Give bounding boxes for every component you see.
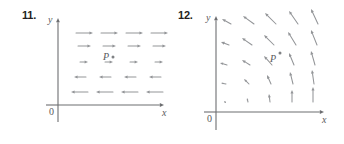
x-axis-label-12: x — [322, 114, 326, 125]
field-vector-2 — [265, 13, 276, 24]
point-label-P-11: P — [103, 51, 109, 62]
field-vector-10 — [220, 63, 227, 65]
field-vector-17 — [96, 90, 113, 93]
field-vector-18 — [289, 72, 293, 84]
field-vector-22 — [268, 94, 271, 102]
field-vector-4 — [78, 44, 91, 47]
field-vector-9 — [311, 30, 317, 45]
field-vector-1 — [243, 16, 254, 24]
field-vector-21 — [247, 98, 249, 102]
field-vector-13 — [99, 75, 111, 78]
field-vector-19 — [146, 90, 163, 93]
field-vector-23 — [290, 90, 293, 102]
field-vector-20 — [224, 101, 226, 103]
field-vector-8 — [288, 32, 296, 45]
field-vector-16 — [71, 90, 88, 93]
field-vector-7 — [264, 35, 274, 45]
point-marker-P — [279, 52, 282, 55]
field-vector-19 — [311, 70, 314, 84]
x-axis-label-11: x — [162, 107, 166, 118]
field-vector-7 — [153, 44, 166, 47]
origin-label-12: 0 — [207, 113, 212, 124]
point-marker-P — [112, 56, 115, 59]
field-vector-1 — [101, 31, 118, 34]
x-axis — [58, 103, 164, 107]
field-vector-3 — [289, 11, 298, 24]
vector-field-plot-12 — [172, 0, 344, 144]
field-vector-18 — [121, 90, 138, 93]
field-vector-17 — [267, 75, 271, 84]
y-axis — [56, 18, 60, 105]
field-vector-6 — [128, 44, 141, 47]
figure-container: 11. y x 0 P 12. y x 0 P — [0, 0, 344, 144]
field-vector-12 — [74, 75, 86, 78]
field-vector-4 — [311, 9, 318, 24]
field-vector-11 — [242, 60, 250, 65]
field-vector-0 — [222, 19, 231, 24]
field-vector-15 — [149, 75, 161, 78]
field-vector-5 — [221, 42, 229, 45]
y-axis-label-12: y — [206, 12, 210, 23]
field-vector-11 — [155, 61, 163, 64]
field-vector-14 — [124, 75, 136, 78]
panel-problem-11: 11. y x 0 P — [0, 0, 172, 144]
y-axis — [214, 16, 218, 112]
field-vector-2 — [126, 31, 143, 34]
panel-problem-12: 12. y x 0 P — [172, 0, 344, 144]
field-vector-6 — [242, 38, 252, 45]
field-vector-10 — [130, 61, 138, 64]
field-vector-3 — [151, 31, 168, 34]
field-vector-15 — [221, 83, 226, 85]
field-vector-0 — [76, 31, 93, 34]
point-label-P-12: P — [270, 53, 276, 64]
x-axis — [216, 110, 324, 114]
field-vector-14 — [311, 51, 315, 65]
field-vector-16 — [244, 79, 249, 84]
origin-label-11: 0 — [49, 106, 54, 117]
vector-field-plot-11 — [0, 0, 172, 144]
field-vector-8 — [80, 61, 88, 64]
field-vector-13 — [289, 53, 294, 65]
y-axis-label-11: y — [48, 14, 52, 25]
field-vector-5 — [103, 44, 116, 47]
field-vector-24 — [311, 87, 314, 102]
